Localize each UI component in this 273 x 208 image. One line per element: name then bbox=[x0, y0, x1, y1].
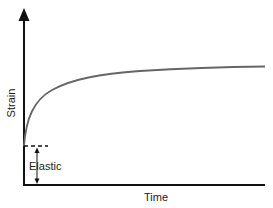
y-axis-arrow-icon bbox=[19, 8, 30, 21]
x-axis-label: Time bbox=[144, 191, 168, 203]
arrow-down-icon bbox=[35, 179, 40, 185]
elastic-label: Elastic bbox=[29, 160, 62, 172]
strain-curve bbox=[24, 67, 265, 147]
arrow-up-icon bbox=[35, 148, 40, 154]
creep-strain-diagram: Elastic Time Strain bbox=[0, 0, 273, 208]
y-axis-label: Strain bbox=[5, 89, 17, 118]
